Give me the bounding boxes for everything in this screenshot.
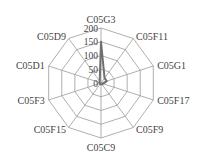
tick-label-200: 200 <box>84 24 99 34</box>
axis-label-c05d9: C05D9 <box>37 31 66 42</box>
axis-label-c05g1: C05G1 <box>157 60 186 71</box>
axis-label-c05d1: C05D1 <box>16 60 45 71</box>
axis-label-c05f11: C05F11 <box>136 31 168 42</box>
radial-tick-labels: 050100150200 <box>84 24 99 89</box>
tick-label-0: 0 <box>93 79 98 89</box>
data-series <box>99 42 106 85</box>
radar-chart: 050100150200 C05G3C05F11C05G1C05F17C05F9… <box>0 0 204 161</box>
axis-label-c05g3: C05G3 <box>87 14 116 25</box>
axis-label-c05c9: C05C9 <box>87 142 115 153</box>
tick-label-150: 150 <box>84 37 99 47</box>
spoke-c05f11 <box>101 39 133 83</box>
spoke-c05f15 <box>69 83 101 127</box>
axis-label-c05f9: C05F9 <box>136 124 163 135</box>
series-polygon <box>99 42 106 85</box>
spoke-c05f9 <box>101 83 133 127</box>
tick-label-50: 50 <box>89 65 99 75</box>
axis-label-c05f3: C05F3 <box>18 95 45 106</box>
radar-chart-svg: 050100150200 C05G3C05F11C05G1C05F17C05F9… <box>0 0 204 161</box>
axis-label-c05f17: C05F17 <box>157 95 189 106</box>
axis-label-c05f15: C05F15 <box>34 124 66 135</box>
tick-label-100: 100 <box>84 51 99 61</box>
